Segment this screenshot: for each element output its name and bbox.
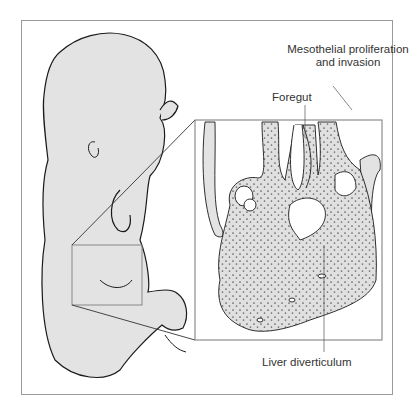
label-mesothelial-line1: Mesothelial proliferation	[283, 43, 413, 56]
label-liver-diverticulum: Liver diverticulum	[262, 356, 351, 369]
label-mesothelial: Mesothelial proliferation and invasion	[283, 43, 413, 69]
embryo-body	[42, 33, 187, 377]
label-foregut: Foregut	[272, 91, 312, 104]
label-mesothelial-line2: and invasion	[283, 56, 413, 69]
